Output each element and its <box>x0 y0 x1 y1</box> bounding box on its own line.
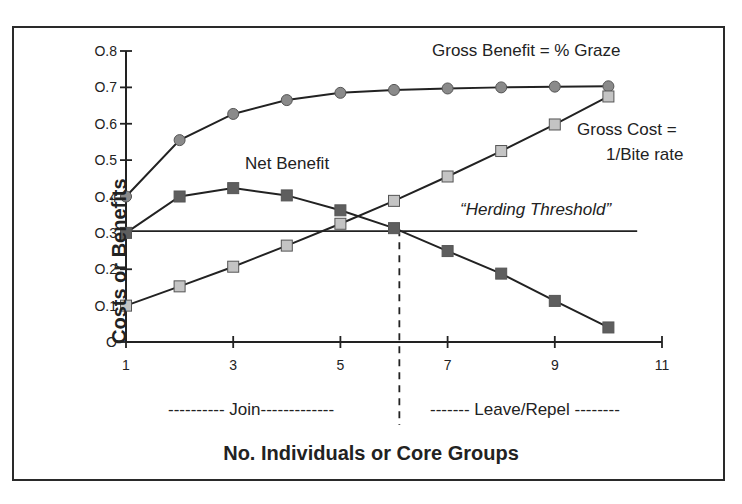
series-line-0 <box>126 86 608 196</box>
square-marker-icon <box>228 183 239 194</box>
x-tick-label: 9 <box>551 357 559 373</box>
y-axis-label: Costs or Benefits <box>108 178 131 344</box>
circle-marker-icon <box>549 81 560 92</box>
square-marker-icon <box>442 171 453 182</box>
herding-threshold-label: “Herding Threshold” <box>460 200 611 220</box>
net-benefit-label: Net Benefit <box>245 154 329 174</box>
square-marker-icon <box>549 295 560 306</box>
circle-marker-icon <box>174 135 185 146</box>
circle-marker-icon <box>442 83 453 94</box>
x-tick-label: 11 <box>655 357 670 373</box>
circle-marker-icon <box>603 81 614 92</box>
square-marker-icon <box>496 268 507 279</box>
square-marker-icon <box>389 223 400 234</box>
x-tick-label: 1 <box>122 357 130 373</box>
x-tick-label: 7 <box>444 357 452 373</box>
x-tick-label: 3 <box>229 357 237 373</box>
y-tick-label: O.8 <box>94 43 117 59</box>
square-marker-icon <box>228 261 239 272</box>
square-marker-icon <box>335 205 346 216</box>
circle-marker-icon <box>281 95 292 106</box>
square-marker-icon <box>174 281 185 292</box>
square-marker-icon <box>603 322 614 333</box>
circle-marker-icon <box>389 84 400 95</box>
square-marker-icon <box>281 190 292 201</box>
square-marker-icon <box>603 91 614 102</box>
square-marker-icon <box>549 119 560 130</box>
square-marker-icon <box>442 246 453 257</box>
square-marker-icon <box>496 146 507 157</box>
square-marker-icon <box>335 218 346 229</box>
gross-cost-label-line1: Gross Cost = <box>577 120 677 140</box>
y-tick-label: O.5 <box>94 152 117 168</box>
join-region-label: ---------- Join------------- <box>168 400 334 420</box>
circle-marker-icon <box>228 108 239 119</box>
square-marker-icon <box>174 191 185 202</box>
circle-marker-icon <box>335 87 346 98</box>
gross-cost-label-line2: 1/Bite rate <box>606 145 684 165</box>
x-tick-label: 5 <box>337 357 345 373</box>
leave-repel-region-label: ------- Leave/Repel -------- <box>430 400 620 420</box>
circle-marker-icon <box>496 82 507 93</box>
gross-benefit-label: Gross Benefit = % Graze <box>432 41 621 61</box>
y-tick-label: O.7 <box>94 79 117 95</box>
square-marker-icon <box>281 240 292 251</box>
square-marker-icon <box>389 195 400 206</box>
y-tick-label: O.6 <box>94 116 117 132</box>
x-axis-label: No. Individuals or Core Groups <box>0 442 742 465</box>
